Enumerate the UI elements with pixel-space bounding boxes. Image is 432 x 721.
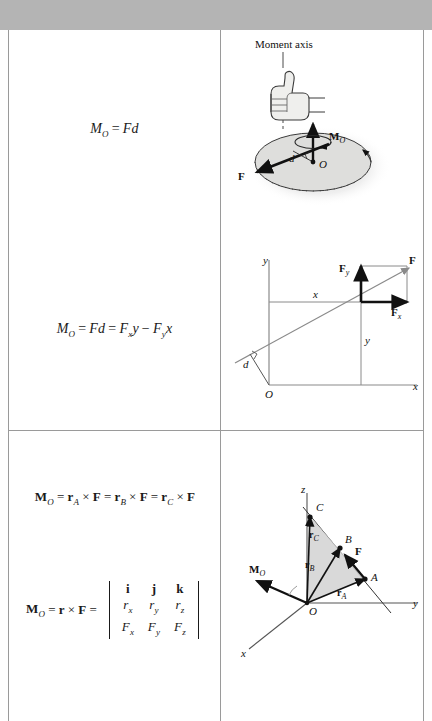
table-row: MO=rA×F=rB×F=rC×F MO=r×F= i j k rx ry rz… xyxy=(9,430,423,721)
det-rx: rx xyxy=(115,597,141,618)
eq3-rc: rC xyxy=(161,489,173,504)
vector-rc-label: rC xyxy=(309,529,319,543)
eq3-f-2: F xyxy=(140,489,148,504)
eq1-equals: = xyxy=(109,121,123,136)
det-ry: ry xyxy=(141,597,167,618)
det-k: k xyxy=(167,581,193,596)
det-fz: Fz xyxy=(167,619,193,640)
determinant-matrix: i j k rx ry rz Fx Fy Fz xyxy=(104,581,204,639)
det-rz: rz xyxy=(167,597,193,618)
eq4-cross: × xyxy=(65,602,79,618)
origin-o-label: O xyxy=(319,158,327,170)
distance-x-label: x xyxy=(313,288,318,300)
vector-rb-label: rB xyxy=(305,559,314,573)
perp-distance-d-label: d xyxy=(243,358,249,370)
equation-cell-moment-components: MO=Fd=Fxy−Fyx xyxy=(9,230,221,430)
axis-y-label: y xyxy=(263,254,268,266)
det-fx: Fx xyxy=(115,619,141,640)
force-label: F xyxy=(238,170,245,182)
det-j: j xyxy=(141,581,167,596)
point-b-label: B xyxy=(345,533,352,545)
point-c-label: C xyxy=(316,501,323,513)
eq2-term2-f: F xyxy=(119,321,128,336)
eq2-term3-f: F xyxy=(153,321,162,336)
distance-d-label: d xyxy=(289,152,295,164)
equation-cell-vector-moment: MO=rA×F=rB×F=rC×F MO=r×F= i j k rx ry rz… xyxy=(9,431,221,721)
axis-z-label: z xyxy=(301,483,305,495)
equation-cross-product: MO=rA×F=rB×F=rC×F xyxy=(13,489,217,507)
eq2-lhs: M xyxy=(57,321,69,336)
vector-ra-label: rA xyxy=(337,587,346,601)
eq3-lhs: MO xyxy=(35,489,54,504)
disk-moment-axis-diagram: Moment axis MO F d O xyxy=(221,30,425,230)
eq3-f-1: F xyxy=(93,489,101,504)
eq2-term2-var: y xyxy=(132,321,138,336)
eq2-term3-var: x xyxy=(166,321,172,336)
force-label: F xyxy=(355,545,362,557)
determinant-left-bar xyxy=(109,581,110,639)
eq1-rhs: Fd xyxy=(123,121,139,136)
table-row: MO=Fd=Fxy−Fyx xyxy=(9,230,423,430)
axis-x-label: x xyxy=(413,380,418,392)
eq1-lhs-sub: O xyxy=(102,129,109,139)
figure-cell-disk-moment: Moment axis MO F d O xyxy=(221,30,425,230)
equation-determinant: MO=r×F= i j k rx ry rz Fx Fy Fz xyxy=(11,581,219,639)
eq3-f-3: F xyxy=(187,489,195,504)
force-y-label: Fy xyxy=(339,262,349,277)
figure-cell-xy-components: y x O F Fy Fx x y d xyxy=(221,230,425,430)
det-i: i xyxy=(115,581,141,596)
eq2-minus: − xyxy=(139,321,153,336)
determinant-right-bar xyxy=(198,581,199,639)
distance-y-label: y xyxy=(365,334,370,346)
xy-force-components-diagram: y x O F Fy Fx x y d xyxy=(221,230,425,430)
origin-o-label: O xyxy=(265,388,273,400)
figure-cell-3d-moment: z y x O C B A rC rB rA F MO xyxy=(221,431,425,721)
eq3-rb: rB xyxy=(114,489,126,504)
moment-axis-label: Moment axis xyxy=(255,38,313,50)
eq3-cross-3: × xyxy=(174,489,188,504)
moment-vector-label: MO xyxy=(329,130,345,145)
equation-cell-scalar-moment: MO=Fd xyxy=(9,30,221,230)
eq2-term1: Fd xyxy=(89,321,105,336)
eq1-lhs: M xyxy=(90,121,102,136)
det-fy: Fy xyxy=(141,619,167,640)
table-row: MO=Fd xyxy=(9,30,423,230)
force-resultant-label: F xyxy=(409,254,416,266)
equation-scalar-moment: MO=Fd xyxy=(90,121,139,139)
equation-moment-components: MO=Fd=Fxy−Fyx xyxy=(57,321,173,339)
top-gray-band xyxy=(0,0,432,30)
moment-vector-label: MO xyxy=(249,563,265,578)
three-dimensional-moment-diagram: z y x O C B A rC rB rA F MO xyxy=(221,431,425,721)
axis-x-label: x xyxy=(241,647,246,659)
eq4-f: F xyxy=(78,602,86,618)
summary-table: MO=Fd xyxy=(8,30,424,721)
force-x-label: Fx xyxy=(391,306,401,321)
axis-y-label: y xyxy=(413,597,418,609)
eq4-lhs: MO xyxy=(26,601,45,619)
eq3-ra: rA xyxy=(67,489,79,504)
eq3-cross-2: × xyxy=(126,489,140,504)
point-a-label: A xyxy=(371,571,378,583)
origin-o-label: O xyxy=(309,605,317,617)
eq3-cross-1: × xyxy=(79,489,93,504)
